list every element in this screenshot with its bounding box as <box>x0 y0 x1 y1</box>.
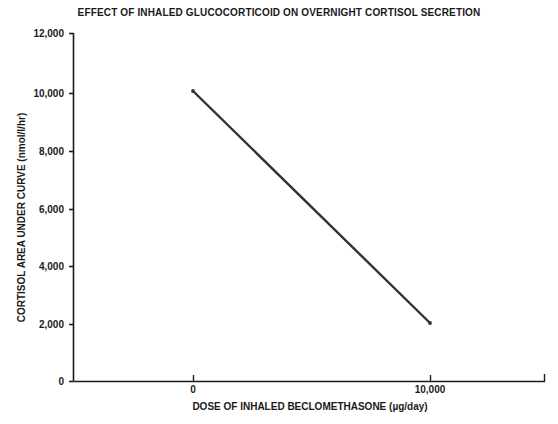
axes <box>74 33 546 382</box>
data-point <box>191 89 195 93</box>
data-series <box>191 89 432 325</box>
plot-area <box>0 0 558 424</box>
x-axis-ticks <box>194 375 431 382</box>
chart-container: EFFECT OF INHALED GLUCOCORTICOID ON OVER… <box>0 0 558 424</box>
series-line <box>193 91 430 323</box>
data-point <box>428 321 432 325</box>
